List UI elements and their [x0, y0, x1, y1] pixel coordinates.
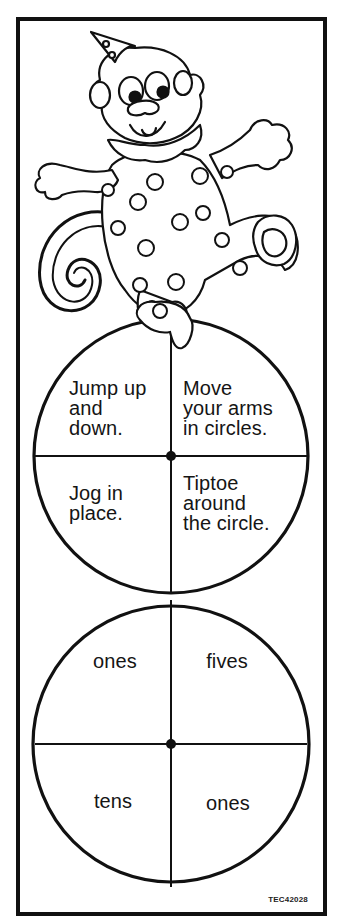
spinner-bottom-section-label: fives: [192, 651, 262, 671]
spinner-center-dot: [166, 739, 176, 749]
monkey-illustration: [35, 32, 297, 327]
product-code: TEC42028: [268, 895, 308, 904]
spinner-top-section-label: Jump up and down.: [69, 378, 146, 438]
spinner-top-section-label: Tiptoe around the circle.: [183, 473, 270, 533]
spinner-top: [34, 319, 308, 593]
spinner-bottom-section-label: ones: [80, 651, 150, 671]
spinner-bottom-section-label: tens: [78, 791, 148, 811]
spinner-bottom-section-label: ones: [193, 793, 263, 813]
spinner-top-section-label: Jog in place.: [69, 483, 123, 523]
spinner-center-dot: [166, 451, 176, 461]
spinner-bottom: [33, 600, 309, 887]
spinner-top-section-label: Move your arms in circles.: [183, 378, 273, 438]
